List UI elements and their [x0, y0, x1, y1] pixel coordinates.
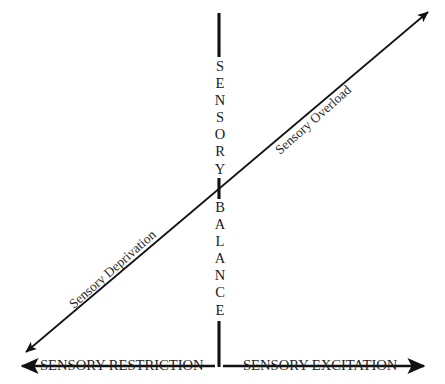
- letter-s-2: S: [203, 109, 237, 126]
- axis-label-sensory-excitation: SENSORY EXCITATION: [243, 357, 397, 374]
- letter-n-1: N: [203, 92, 237, 109]
- vertical-label-balance: B A L A N C E: [203, 199, 237, 319]
- vertical-label-sensory: S E N S O R Y: [203, 58, 237, 178]
- axis-label-sensory-restriction: SENSORY RESTRICTION: [40, 357, 204, 374]
- letter-l-1: L: [203, 233, 237, 250]
- letter-e-1: E: [203, 75, 237, 92]
- letter-n-2: N: [203, 267, 237, 284]
- letter-r-1: R: [203, 143, 237, 160]
- sensory-balance-diagram: S E N S O R Y B A L A N C E SENSORY REST…: [0, 0, 445, 384]
- letter-c-1: C: [203, 284, 237, 301]
- letter-a-2: A: [203, 250, 237, 267]
- letter-s-1: S: [203, 58, 237, 75]
- letter-b-1: B: [203, 199, 237, 216]
- letter-a-1: A: [203, 216, 237, 233]
- letter-o-1: O: [203, 126, 237, 143]
- letter-y-1: Y: [203, 161, 237, 178]
- letter-e-2: E: [203, 302, 237, 319]
